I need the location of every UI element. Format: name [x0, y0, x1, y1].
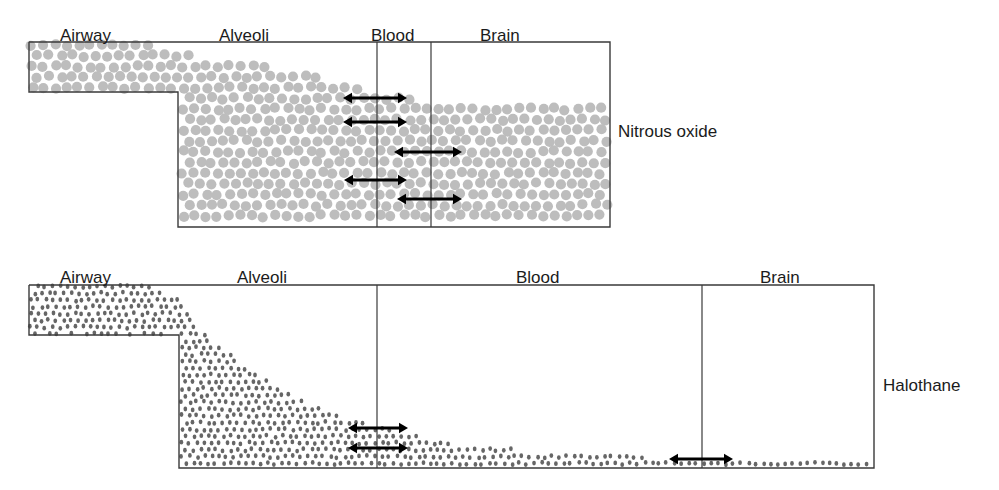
molecule-dot [46, 317, 50, 322]
molecule-dot [166, 60, 176, 70]
molecule-dot [205, 114, 215, 124]
molecule-dot [246, 104, 256, 114]
molecule-dot [468, 189, 478, 199]
molecule-dot [478, 190, 488, 200]
molecule-dot [396, 453, 400, 458]
molecule-dot [264, 93, 274, 103]
molecule-dot [244, 461, 248, 466]
molecule-dot [486, 178, 496, 188]
molecule-dot [409, 441, 413, 446]
molecule-dot [124, 50, 134, 60]
molecule-dot [76, 304, 80, 309]
molecule-dot [605, 461, 609, 466]
molecule-dot [554, 158, 564, 168]
molecule-dot [190, 353, 194, 358]
compartment-label-airway-halothane: Airway [60, 268, 111, 288]
molecule-dot [127, 72, 137, 82]
molecule-dot [241, 201, 251, 211]
molecule-dot [307, 146, 317, 156]
molecule-dot [306, 188, 316, 198]
molecule-dot [416, 156, 426, 166]
molecule-dot [195, 137, 205, 147]
molecule-dot [229, 433, 233, 438]
molecule-dot [420, 124, 430, 134]
molecule-dot [214, 392, 218, 397]
molecule-dot [283, 103, 293, 113]
molecule-dot [217, 346, 221, 351]
molecule-dot [370, 461, 374, 466]
molecule-dot [582, 168, 592, 178]
molecule-dot [272, 448, 276, 453]
molecule-dot [539, 190, 549, 200]
molecule-dot [210, 387, 214, 392]
molecule-dot [209, 371, 213, 376]
molecule-dot [455, 126, 465, 136]
molecule-dot [292, 428, 296, 433]
molecule-dot [311, 447, 315, 452]
molecule-dot [303, 420, 307, 425]
molecule-dot [574, 146, 584, 156]
molecule-dot [403, 454, 407, 459]
molecule-dot [330, 441, 334, 446]
molecule-dot [27, 61, 37, 71]
molecule-dot [85, 332, 89, 337]
molecule-dot [200, 394, 204, 399]
molecule-dot [351, 105, 361, 115]
molecule-dot [513, 210, 523, 220]
molecule-dot [96, 311, 100, 316]
molecule-dot [270, 169, 280, 179]
molecule-dot [502, 104, 512, 114]
molecule-dot [762, 461, 766, 466]
molecule-dot [365, 125, 375, 135]
molecule-dot [117, 312, 121, 317]
molecule-dot [294, 124, 304, 134]
molecule-dot [433, 104, 443, 114]
molecule-dot [211, 212, 221, 222]
molecule-dot [253, 441, 257, 446]
molecule-dot [583, 124, 593, 134]
molecule-dot [197, 157, 207, 167]
molecule-dot [344, 440, 348, 445]
molecule-dot [184, 366, 188, 371]
molecule-dot [313, 413, 317, 418]
molecule-dot [594, 209, 604, 219]
molecule-dot [468, 125, 478, 135]
molecule-dot [186, 441, 190, 446]
molecule-dot [124, 297, 128, 302]
molecule-dot [242, 135, 252, 145]
molecule-dot [125, 326, 129, 331]
molecule-dot [556, 201, 566, 211]
molecule-dot [229, 157, 239, 167]
molecule-dot [237, 434, 241, 439]
molecule-dot [231, 179, 241, 189]
molecule-dot [232, 372, 236, 377]
molecule-dot [414, 461, 418, 466]
molecule-dot [821, 460, 825, 465]
molecule-dot [188, 427, 192, 432]
molecule-dot [418, 440, 422, 445]
molecule-dot [391, 434, 395, 439]
panel-halothane [28, 283, 874, 468]
molecule-dot [277, 93, 287, 103]
molecule-dot [374, 104, 384, 114]
molecule-dot [178, 312, 182, 317]
molecule-dot [549, 167, 559, 177]
molecule-dot [236, 61, 246, 71]
molecule-dot [36, 284, 40, 289]
molecule-dot [321, 413, 325, 418]
molecule-dot [240, 387, 244, 392]
molecule-dot [550, 210, 560, 220]
molecule-dot [416, 177, 426, 187]
molecule-dot [260, 126, 270, 136]
molecule-dot [475, 178, 485, 188]
molecule-dot [407, 447, 411, 452]
molecule-dot [849, 462, 853, 467]
molecule-dot [374, 125, 384, 135]
molecule-dot [579, 454, 583, 459]
molecule-dot [317, 406, 321, 411]
molecule-dot [188, 413, 192, 418]
molecule-dot [276, 387, 280, 392]
molecule-dot [422, 104, 432, 114]
molecule-dot [248, 169, 258, 179]
molecule-dot [359, 115, 369, 125]
